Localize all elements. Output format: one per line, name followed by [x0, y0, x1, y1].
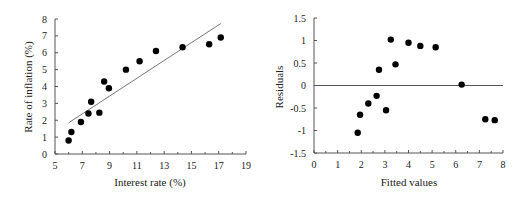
x-tick-label: 5	[53, 160, 58, 171]
right-y-axis-title: Residuals	[273, 66, 285, 109]
x-tick-label: 0	[312, 159, 317, 170]
y-tick-label: 7	[42, 30, 47, 41]
left-x-axis-title: Interest rate (%)	[114, 176, 186, 189]
data-point	[153, 48, 159, 54]
x-tick-label: 11	[132, 160, 142, 171]
data-point	[101, 78, 107, 84]
data-point	[392, 61, 398, 67]
x-tick-label: 8	[501, 159, 506, 170]
data-point	[357, 112, 363, 118]
inflation-vs-interest-chart: 5791113151719012345678 Interest rate (%)…	[22, 14, 251, 190]
y-tick-label: 4	[42, 81, 47, 92]
data-point	[417, 43, 423, 49]
data-point	[458, 81, 464, 87]
regression-line	[69, 24, 221, 123]
data-point	[85, 110, 91, 116]
data-point	[365, 100, 371, 106]
data-point	[492, 117, 498, 123]
y-tick-label: -1	[298, 125, 306, 136]
data-point	[96, 109, 102, 115]
data-point	[136, 58, 142, 64]
data-point	[78, 119, 84, 125]
x-tick-label: 4	[406, 159, 411, 170]
data-point	[106, 85, 112, 91]
y-tick-label: 6	[42, 47, 47, 58]
y-tick-label: 0	[301, 80, 306, 91]
data-point	[88, 98, 94, 104]
data-point	[405, 40, 411, 46]
y-tick-label: 1	[301, 35, 306, 46]
x-tick-label: 15	[186, 160, 196, 171]
x-tick-label: 17	[214, 160, 224, 171]
x-tick-label: 1	[335, 159, 340, 170]
data-point	[373, 93, 379, 99]
data-point	[376, 67, 382, 73]
x-tick-label: 7	[477, 159, 482, 170]
y-tick-label: 1	[42, 132, 47, 143]
figure: 5791113151719012345678 Interest rate (%)…	[0, 0, 528, 203]
y-tick-label: 2	[42, 115, 47, 126]
y-tick-label: 8	[42, 14, 47, 25]
data-point	[383, 107, 389, 113]
x-tick-label: 6	[453, 159, 458, 170]
y-tick-label: 0	[42, 149, 47, 160]
data-point	[206, 41, 212, 47]
data-point	[355, 130, 361, 136]
left-fit-line	[69, 24, 221, 123]
x-tick-label: 7	[80, 160, 85, 171]
x-tick-label: 13	[159, 160, 169, 171]
y-tick-label: -0.5	[290, 103, 306, 114]
y-tick-label: 3	[42, 98, 47, 109]
x-tick-label: 9	[107, 160, 112, 171]
data-point	[123, 66, 129, 72]
residuals-vs-fitted-chart: 012345678-1.5-1-0.500.511.5 Fitted value…	[273, 13, 506, 189]
y-tick-label: 5	[42, 64, 47, 75]
data-point	[68, 129, 74, 135]
data-point	[388, 36, 394, 42]
x-tick-label: 5	[430, 159, 435, 170]
data-point	[482, 116, 488, 122]
data-point	[432, 44, 438, 50]
right-x-axis-title: Fitted values	[381, 176, 438, 188]
y-tick-label: -1.5	[290, 148, 306, 159]
right-points	[355, 36, 498, 136]
y-tick-label: 1.5	[294, 13, 307, 24]
left-y-axis-title: Rate of inflation (%)	[22, 41, 35, 133]
x-tick-label: 2	[359, 159, 364, 170]
right-axes: 012345678-1.5-1-0.500.511.5	[290, 13, 505, 171]
data-point	[65, 137, 71, 143]
data-point	[218, 34, 224, 40]
left-points	[65, 34, 224, 143]
data-point	[179, 44, 185, 50]
x-tick-label: 3	[382, 159, 387, 170]
y-tick-label: 0.5	[294, 58, 307, 69]
x-tick-label: 19	[241, 160, 251, 171]
